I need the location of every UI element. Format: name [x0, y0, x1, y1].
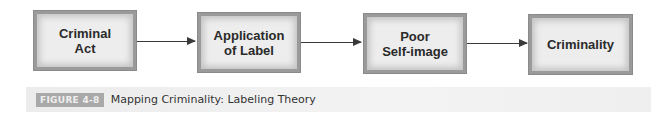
arrow-criminal-act-to-application	[137, 41, 195, 42]
node-criminal-act: Criminal Act	[33, 10, 137, 71]
node-criminality: Criminality	[528, 14, 633, 75]
node-label-line2: Act	[59, 41, 111, 56]
node-poor-self-image: Poor Self-image	[363, 13, 467, 74]
node-label-line1: Poor	[382, 29, 448, 44]
figure-caption: FIGURE 4-8 Mapping Criminality: Labeling…	[26, 87, 651, 112]
figure-number-badge: FIGURE 4-8	[36, 93, 104, 107]
node-label-line2: of Label	[214, 43, 285, 58]
arrow-application-to-self-image	[301, 42, 361, 43]
figure-title: Mapping Criminality: Labeling Theory	[111, 93, 316, 106]
node-label-line1: Criminal	[59, 26, 111, 41]
node-label-line1: Application	[214, 28, 285, 43]
arrow-self-image-to-criminality	[467, 43, 527, 44]
node-label-line1: Criminality	[547, 37, 614, 52]
node-label-line2: Self-image	[382, 44, 448, 59]
node-application-of-label: Application of Label	[197, 12, 301, 73]
